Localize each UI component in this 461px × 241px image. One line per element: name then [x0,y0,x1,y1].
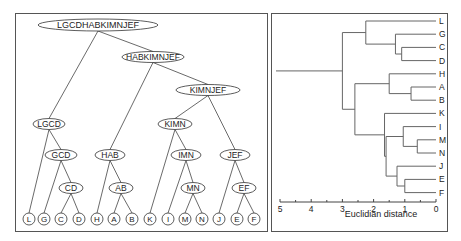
dendro-leaf-label-i: I [439,122,441,132]
dendro-merge-ab [411,87,436,100]
dendro-leaf-label-g: G [439,29,446,39]
dendro-merge-lgcdhabkimnjef [342,33,365,110]
dendro-leaf-label-d: D [439,56,445,66]
dendro-merge-kimnjef [385,113,436,156]
x-axis-label: Euclidian distance [321,209,441,219]
dendro-merge-cd [402,47,436,60]
dendro-merge-ef [405,179,436,192]
x-tick-label: 5 [278,204,283,214]
dendro-leaf-label-e: E [439,174,445,184]
dendro-leaf-label-n: N [439,148,445,158]
dendro-leaf-label-b: B [439,95,445,105]
dendro-leaf-label-a: A [439,82,445,92]
dendro-leaf-label-h: H [439,69,445,79]
dendro-merge-mn [417,140,436,153]
dendro-leaf-label-j: J [439,161,443,171]
dendro-leaf-label-c: C [439,42,445,52]
dendro-merge-imnjef [386,137,403,177]
dendro-merge-lgcd [366,21,436,44]
dendro-merge-hab [389,74,436,94]
dendro-merge-imn [403,127,436,147]
dendro-leaf-label-l: L [439,16,444,26]
dendro-leaf-label-f: F [439,188,444,198]
x-tick-label: 4 [309,204,314,214]
dendrogram-chart: LGCDHABKIMNJEF543210 [0,0,461,241]
dendro-leaf-label-m: M [439,135,446,145]
dendro-leaf-label-k: K [439,108,445,118]
dendro-merge-jef [397,166,436,186]
